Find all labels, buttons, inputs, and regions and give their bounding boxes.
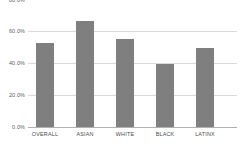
x-tick-label-latinx: LATINX xyxy=(183,131,227,138)
y-tick-label-40: 40.0% xyxy=(0,60,25,66)
y-tick-label-80: 80.0% xyxy=(0,0,25,3)
bar-chart-plot-area: 80.0% 60.0% 40.0% 20.0% 0.0% OVERALL ASI… xyxy=(0,0,243,153)
y-tick-label-60: 60.0% xyxy=(0,28,25,34)
x-tick-label-white: WHITE xyxy=(103,131,147,138)
y-tick-label-0: 0.0% xyxy=(0,124,25,130)
y-tick-label-20: 20.0% xyxy=(0,92,25,98)
bar-latinx xyxy=(196,48,214,127)
bar-black xyxy=(156,64,174,127)
chart-screenshot: 80.0% 60.0% 40.0% 20.0% 0.0% OVERALL ASI… xyxy=(0,0,243,153)
x-tick-label-asian: ASIAN xyxy=(63,131,107,138)
bar-asian xyxy=(76,21,94,127)
bar-overall xyxy=(36,43,54,127)
x-tick-label-black: BLACK xyxy=(143,131,187,138)
x-tick-label-overall: OVERALL xyxy=(23,131,67,138)
gridline-60 xyxy=(28,31,237,32)
bar-white xyxy=(116,39,134,127)
axis-baseline-zero xyxy=(28,127,237,128)
